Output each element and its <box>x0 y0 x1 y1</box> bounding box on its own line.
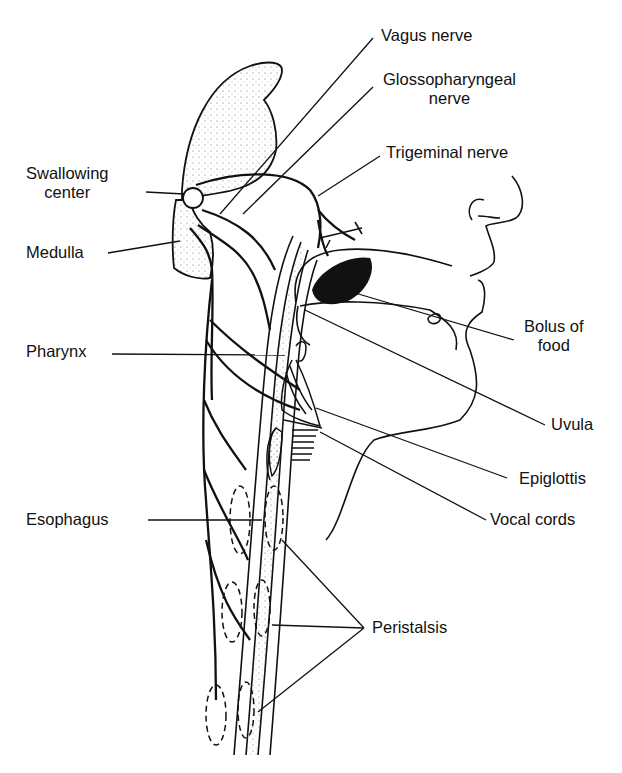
label-bolus-of-food: Bolus of food <box>524 317 584 355</box>
label-pharynx: Pharynx <box>26 342 87 361</box>
label-esophagus: Esophagus <box>26 510 109 529</box>
brain-shape <box>182 63 282 198</box>
anatomy-drawing <box>0 0 622 773</box>
label-vagus-nerve: Vagus nerve <box>381 26 472 45</box>
swallowing-center-circle <box>183 188 203 208</box>
label-swallowing-center-line1: Swallowing <box>26 164 109 183</box>
label-glossopharyngeal-line1: Glossopharyngeal <box>383 70 516 89</box>
label-epiglottis: Epiglottis <box>519 469 586 488</box>
label-trigeminal-nerve: Trigeminal nerve <box>386 143 508 162</box>
bolus-shape <box>312 257 372 304</box>
label-medulla: Medulla <box>26 243 84 262</box>
label-vocal-cords: Vocal cords <box>490 510 575 529</box>
trigeminal-branches <box>320 222 362 248</box>
label-bolus-line2: food <box>524 336 584 355</box>
label-swallowing-center-line2: center <box>26 183 109 202</box>
face-profile <box>326 176 522 540</box>
leader-lines <box>108 38 545 712</box>
swallowing-diagram: Vagus nerve Glossopharyngeal nerve Trige… <box>0 0 622 773</box>
label-bolus-line1: Bolus of <box>524 317 584 336</box>
label-glossopharyngeal-line2: nerve <box>383 89 516 108</box>
label-glossopharyngeal-nerve: Glossopharyngeal nerve <box>383 70 516 108</box>
label-peristalsis: Peristalsis <box>372 618 447 637</box>
label-uvula: Uvula <box>551 415 593 434</box>
label-swallowing-center: Swallowing center <box>26 164 109 202</box>
